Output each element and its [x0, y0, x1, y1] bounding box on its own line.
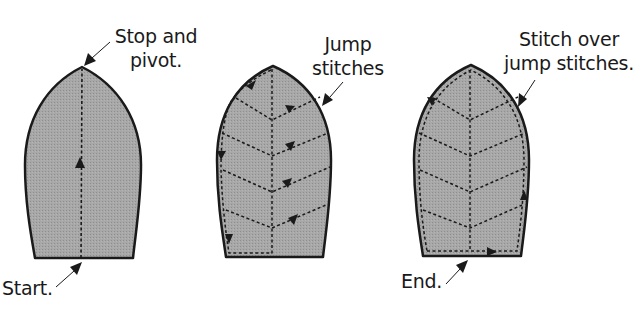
label-end: End. [401, 269, 451, 293]
leaf-outline [25, 67, 141, 258]
label-line-1: Start. [2, 276, 58, 300]
label-stitch-over-jump-stitches: Stitch over jump stitches. [498, 27, 640, 75]
leaf-outline [217, 66, 331, 257]
stitching-diagram: Stop and pivot. Start. Jump stitches Sti… [0, 0, 641, 310]
label-line-1: Stitch over [498, 27, 640, 51]
label-line-2: jump stitches. [498, 51, 640, 75]
label-line-1: End. [401, 269, 451, 293]
pointer-jump-stitches [322, 82, 343, 106]
pointer-start [56, 262, 82, 287]
pointer-stop-and-pivot [84, 42, 110, 66]
arrowhead-icon [84, 53, 96, 66]
label-line-1: Stop and [108, 24, 204, 48]
pointer-stitch-over [518, 80, 535, 107]
label-start: Start. [2, 276, 58, 300]
label-stop-and-pivot: Stop and pivot. [108, 24, 204, 72]
label-jump-stitches: Jump stitches [306, 32, 390, 80]
leaf-step-1 [25, 67, 141, 258]
label-line-2: stitches [306, 56, 390, 80]
label-line-2: pivot. [108, 48, 204, 72]
leaf-step-2 [217, 66, 331, 257]
label-line-1: Jump [306, 32, 390, 56]
leaf-step-3 [414, 65, 529, 256]
